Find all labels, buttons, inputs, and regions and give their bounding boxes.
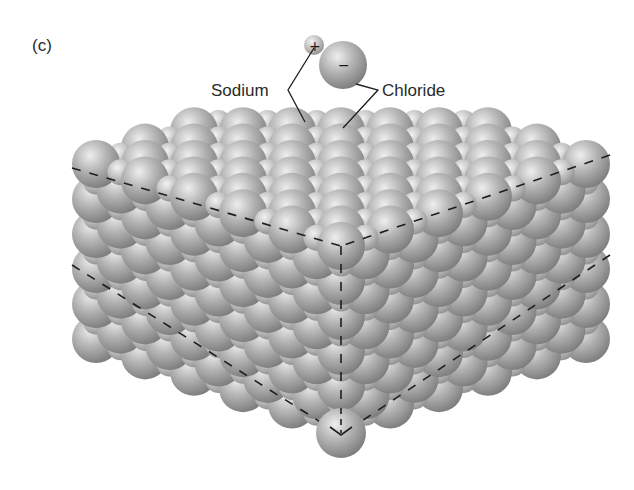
minus-charge-icon: − [338,57,350,73]
plus-charge-icon: + [309,38,321,54]
nacl-lattice-diagram: + − [0,0,634,490]
ion-pair: + − [304,35,367,89]
